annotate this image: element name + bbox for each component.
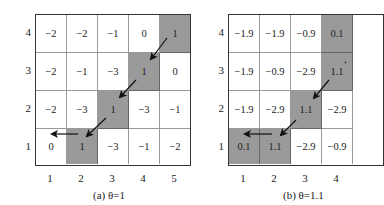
cell: −1.9 — [229, 53, 260, 91]
x-tick-label: 4 — [326, 172, 346, 184]
y-tick-label: 2 — [214, 102, 224, 114]
x-tick-label: 2 — [264, 172, 284, 184]
x-tick-label: 3 — [295, 172, 315, 184]
cell: −1.9 — [260, 15, 291, 53]
y-tick-label: 1 — [214, 140, 224, 152]
cell-shaded: 1.1 — [322, 53, 353, 91]
caption-b: (b) θ=1.1 — [283, 189, 324, 201]
cell-shaded: 1.1 — [260, 129, 291, 164]
cell: −0.9 — [291, 15, 322, 53]
y-tick-label: 3 — [214, 64, 224, 76]
cell: −2.9 — [291, 129, 322, 164]
cell-shaded: 0.1 — [322, 15, 353, 53]
grid-b: −1.9 −1.9 −0.9 0.1 −1.9 −0.9 −2.9 1.1 −1… — [228, 14, 384, 166]
cell: −1.9 — [229, 91, 260, 129]
cell-shaded: 1.1 — [291, 91, 322, 129]
cell: −2.9 — [260, 91, 291, 129]
cell: −0.9 — [260, 53, 291, 91]
cell: −1.9 — [229, 15, 260, 53]
x-tick-label: 1 — [233, 172, 253, 184]
cell-shaded: 0.1 — [229, 129, 260, 164]
cell: −2.9 — [291, 53, 322, 91]
cell: −2.9 — [322, 91, 353, 129]
y-tick-label: 4 — [214, 26, 224, 38]
cell: −0.9 — [322, 129, 353, 164]
